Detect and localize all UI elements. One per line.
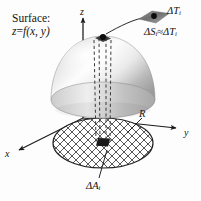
region-label: R bbox=[139, 108, 145, 120]
delta-S-symbol: ΔS bbox=[144, 26, 155, 37]
surface-area-diagram: Surface: z=f(x, y) z y x R ΔTi ΔSi≈ΔTi Δ… bbox=[0, 0, 201, 201]
delta-T2-subscript: i bbox=[175, 30, 177, 37]
delta-A-patch bbox=[96, 138, 110, 147]
delta-S-point bbox=[100, 34, 106, 40]
delta-A-subscript: i bbox=[99, 184, 101, 191]
delta-T-patch bbox=[139, 11, 169, 23]
delta-S-approx-label: ΔSi≈ΔTi bbox=[144, 26, 177, 38]
surface-caption-line2: z=f(x, y) bbox=[12, 25, 50, 38]
surface-caption-line1: Surface: bbox=[12, 12, 50, 25]
surface-eq-rhs: f(x, y) bbox=[23, 25, 50, 37]
x-axis-label: x bbox=[5, 148, 9, 159]
y-axis-label: y bbox=[184, 127, 188, 138]
surface-caption: Surface: z=f(x, y) bbox=[12, 12, 50, 38]
surface-dome bbox=[51, 36, 155, 118]
region-R-ellipse bbox=[53, 118, 153, 168]
delta-T-point bbox=[151, 13, 157, 19]
delta-T-symbol: ΔT bbox=[167, 5, 179, 16]
delta-A-symbol: ΔA bbox=[86, 180, 99, 191]
delta-T2-symbol: ΔT bbox=[163, 26, 175, 37]
delta-T-label: ΔTi bbox=[167, 5, 181, 17]
delta-A-label: ΔAi bbox=[86, 180, 100, 192]
delta-T-subscript: i bbox=[179, 9, 181, 16]
z-axis-label: z bbox=[80, 6, 84, 17]
